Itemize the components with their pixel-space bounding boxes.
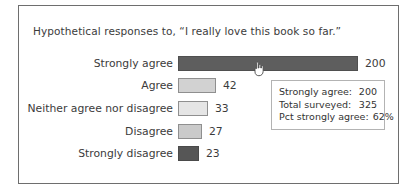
tooltip-rows: Strongly agree:200Total surveyed:325Pct … xyxy=(279,86,377,124)
tooltip-row: Pct strongly agree:62% xyxy=(279,111,377,124)
tooltip-row-value: 62% xyxy=(373,111,394,124)
bar-disagree[interactable] xyxy=(178,124,202,139)
chart-row: Strongly agree200 xyxy=(19,52,398,75)
chart-row: Strongly disagree23 xyxy=(19,142,398,165)
bar-agree[interactable] xyxy=(178,78,216,93)
category-label: Agree xyxy=(19,79,173,92)
tooltip-row-value: 200 xyxy=(359,86,377,99)
screenshot-root: Hypothetical responses to, “I really lov… xyxy=(0,0,415,194)
tooltip-row-label: Total surveyed: xyxy=(279,99,351,112)
value-label: 200 xyxy=(365,57,386,70)
tooltip-row-value: 325 xyxy=(359,99,377,112)
category-label: Strongly agree xyxy=(19,57,173,70)
tooltip-row-label: Pct strongly agree: xyxy=(279,111,369,124)
bar-strongly-agree[interactable] xyxy=(178,56,358,71)
value-label: 23 xyxy=(206,147,220,160)
tooltip-row-label: Strongly agree: xyxy=(279,86,352,99)
tooltip: Strongly agree:200Total surveyed:325Pct … xyxy=(271,80,385,130)
category-label: Neither agree nor disagree xyxy=(19,102,173,115)
value-label: 33 xyxy=(215,102,229,115)
tooltip-row: Strongly agree:200 xyxy=(279,86,377,99)
bar-neither-agree-nor-disagree[interactable] xyxy=(178,101,208,116)
tooltip-row: Total surveyed:325 xyxy=(279,99,377,112)
chart-title: Hypothetical responses to, “I really lov… xyxy=(33,25,341,37)
category-label: Disagree xyxy=(19,125,173,138)
bar-strongly-disagree[interactable] xyxy=(178,146,199,161)
category-label: Strongly disagree xyxy=(19,147,173,160)
value-label: 42 xyxy=(223,79,237,92)
value-label: 27 xyxy=(209,125,223,138)
